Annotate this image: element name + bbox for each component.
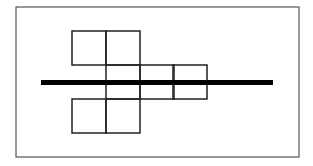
- square-top-0: [72, 31, 106, 65]
- square-bottom-5: [72, 99, 106, 133]
- square-top-1: [106, 31, 140, 65]
- square-bottom-6: [106, 99, 140, 133]
- diagram-canvas: [0, 0, 313, 166]
